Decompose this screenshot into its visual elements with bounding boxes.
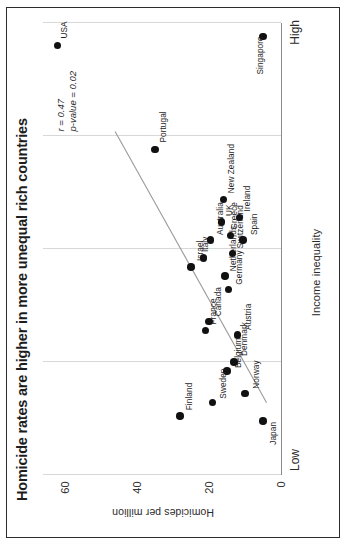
data-point[interactable] [151, 146, 159, 154]
data-point-label: Ireland [243, 186, 252, 212]
data-point[interactable] [239, 236, 247, 244]
data-point-label: Finland [185, 383, 194, 411]
x-axis-title: Income inequality [310, 8, 322, 537]
data-point[interactable] [200, 254, 208, 262]
trendline [43, 23, 281, 475]
x-axis-high-label: High [288, 20, 302, 45]
chart-title: Homicide rates are higher in more unequa… [15, 81, 31, 501]
data-point-label: Singapore [256, 36, 265, 74]
page-frame: Homicide rates are higher in more unequa… [0, 0, 347, 546]
data-point-label: Denmark [240, 322, 249, 356]
y-tick-label: 60 [59, 481, 71, 515]
data-point-label: New Zealand [227, 144, 236, 193]
scatter-chart-figure: Homicide rates are higher in more unequa… [7, 8, 336, 537]
data-point-label: Sweden [219, 368, 228, 398]
data-point-label: Spain [250, 214, 259, 235]
figure-rotator: Homicide rates are higher in more unequa… [7, 8, 336, 537]
data-point[interactable] [187, 263, 195, 271]
data-point[interactable] [241, 390, 249, 398]
data-point[interactable] [218, 218, 226, 226]
y-tick-label: 0 [275, 481, 287, 515]
data-point[interactable] [205, 318, 213, 326]
plot-area: USASingaporePortugalIsraelFinlandFranceI… [43, 23, 281, 475]
data-point-label: Portugal [159, 111, 168, 142]
y-axis-title: Homicides per million [112, 507, 214, 519]
data-point[interactable] [207, 236, 215, 244]
data-point[interactable] [202, 327, 210, 335]
data-point[interactable] [176, 413, 184, 421]
data-point[interactable] [230, 358, 238, 366]
data-point-label: Germany [235, 250, 244, 284]
data-point-label: Canada [214, 287, 223, 316]
data-point-label: Norway [252, 360, 261, 388]
x-axis-line [281, 23, 282, 475]
data-point-label: Japan [269, 422, 278, 445]
data-point[interactable] [220, 196, 228, 204]
data-point-label: USA [60, 21, 69, 38]
data-point[interactable] [259, 417, 267, 425]
data-point[interactable] [221, 272, 229, 280]
x-axis-low-label: Low [288, 449, 302, 471]
